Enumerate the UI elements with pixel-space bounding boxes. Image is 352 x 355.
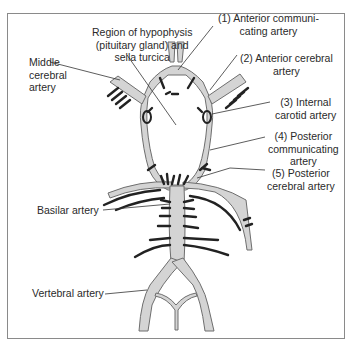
label-line: cating artery <box>218 25 319 38</box>
basilar-artery <box>169 186 185 262</box>
label-line: artery <box>268 155 339 168</box>
label-line: (pituitary gland) and <box>92 39 192 52</box>
label-line: Region of hypophysis <box>92 26 192 39</box>
label-line: Vertebral artery <box>32 287 104 300</box>
label-line: (1) Anterior communi- <box>218 12 319 25</box>
label-line: communicating <box>268 143 339 156</box>
anterior-spinal <box>155 293 197 330</box>
label-line: (4) Posterior <box>268 130 339 143</box>
label-middle-cerebral: Middle cerebral artery <box>29 56 67 94</box>
label-line: cerebral artery <box>267 180 335 193</box>
label-line: artery <box>240 65 333 78</box>
label-line: carotid artery <box>275 109 336 122</box>
label-line: artery <box>29 81 67 94</box>
label-vertebral: Vertebral artery <box>32 287 104 300</box>
label-line: sella turcica <box>92 51 192 64</box>
posterior-cerebral-left <box>108 182 172 198</box>
label-anterior-communicating: (1) Anterior communi- cating artery <box>218 12 319 37</box>
label-line: (3) Internal <box>275 96 336 109</box>
leader-posterior-communicating <box>210 137 265 150</box>
label-line: Middle <box>29 56 67 69</box>
leader-basilar <box>103 204 170 210</box>
middle-cerebral-right <box>208 74 246 104</box>
label-line: (5) Posterior <box>267 167 335 180</box>
label-internal-carotid: (3) Internal carotid artery <box>275 96 336 121</box>
label-line: Basilar artery <box>37 204 99 217</box>
label-line: (2) Anterior cerebral <box>240 52 333 65</box>
label-hypophysis: Region of hypophysis (pituitary gland) a… <box>92 26 192 64</box>
label-anterior-cerebral: (2) Anterior cerebral artery <box>240 52 333 77</box>
label-posterior-cerebral: (5) Posterior cerebral artery <box>267 167 335 192</box>
leader-internal-carotid <box>212 102 270 114</box>
label-line: cerebral <box>29 69 67 82</box>
leader-vertebral <box>105 290 147 294</box>
arterial-circle <box>140 66 212 190</box>
label-posterior-communicating: (4) Posterior communicating artery <box>268 130 339 168</box>
label-basilar: Basilar artery <box>37 204 99 217</box>
